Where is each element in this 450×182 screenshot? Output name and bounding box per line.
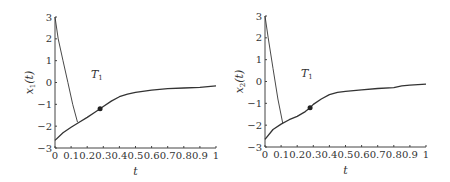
y-tick-label: 1 [46,55,52,66]
y-tick-label: −3 [37,143,52,154]
series-trajectory_main [265,84,426,139]
x-tick-label: 0.4 [111,150,127,161]
y-tick-label: 1 [256,54,262,65]
annotation-T1: T1 [301,67,313,81]
x-tick-label: 0.6 [354,149,370,160]
x-tick-label: 0.9 [192,150,208,161]
x-tick-label: 0.8 [176,150,192,161]
series-trajectory_main [55,86,216,141]
x-tick-label: 0.7 [370,149,386,160]
x-tick-label: 0.1 [273,149,289,160]
x-tick-label: 0.6 [144,150,160,161]
x-tick-label: 1 [213,150,219,161]
line-chart-x1: 00.10.20.30.40.50.60.70.80.913210−1−2−3t… [0,0,225,182]
series-trajectory_initial [55,17,78,122]
x-tick-label: 0.2 [289,149,305,160]
y-tick-label: −2 [247,120,262,131]
chart-panel-x2: 00.10.20.30.40.50.60.70.80.913210−1−2−3t… [225,0,450,182]
x-axis-title: t [133,165,138,178]
y-tick-label: 0 [256,76,262,87]
x-tick-label: 0.2 [79,150,95,161]
x-tick-label: 0.1 [63,150,79,161]
y-tick-label: 0 [46,77,52,88]
x-axis-title: t [343,164,348,177]
x-tick-label: 0 [52,150,58,161]
marker-point [98,106,103,111]
chart-panel-x1: 00.10.20.30.40.50.60.70.80.913210−1−2−3t… [0,0,225,182]
annotation-T1: T1 [91,68,103,82]
y-tick-label: −1 [37,99,52,110]
y-tick-label: 2 [256,32,262,43]
y-tick-label: 3 [46,12,52,23]
x-tick-label: 0.8 [386,149,402,160]
x-tick-label: 0.3 [305,149,321,160]
y-axis-title: x2(t) [233,70,247,94]
x-tick-label: 0.5 [128,150,144,161]
x-tick-label: 0.9 [402,149,418,160]
x-tick-label: 0 [262,149,268,160]
y-axis-title: x1(t) [23,71,37,95]
y-tick-label: −3 [247,142,262,153]
x-tick-label: 0.5 [338,149,354,160]
x-tick-label: 0.7 [160,150,176,161]
marker-point [308,105,313,110]
y-tick-label: −1 [247,98,262,109]
x-tick-label: 1 [423,149,429,160]
x-tick-label: 0.3 [95,150,111,161]
line-chart-x2: 00.10.20.30.40.50.60.70.80.913210−1−2−3t… [225,0,450,182]
y-tick-label: −2 [37,121,52,132]
y-tick-label: 2 [46,33,52,44]
series-trajectory_initial [265,16,283,123]
y-tick-label: 3 [256,11,262,22]
x-tick-label: 0.4 [321,149,337,160]
